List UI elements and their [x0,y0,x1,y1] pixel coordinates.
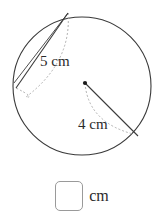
label-radius-4cm: 4 cm [78,116,108,132]
answer-unit-label: cm [89,188,109,204]
chord-5cm [16,13,68,88]
answer-input[interactable] [55,181,83,211]
circle-geometry-figure: 5 cm 4 cm [0,0,164,170]
label-chord-5cm: 5 cm [40,53,70,69]
answer-row: cm [0,174,164,217]
center-point-dot [83,81,87,85]
chord-5cm-secondary [14,13,68,83]
diagram-stage: 5 cm 4 cm cm [0,0,164,217]
circle-outline [13,17,151,155]
